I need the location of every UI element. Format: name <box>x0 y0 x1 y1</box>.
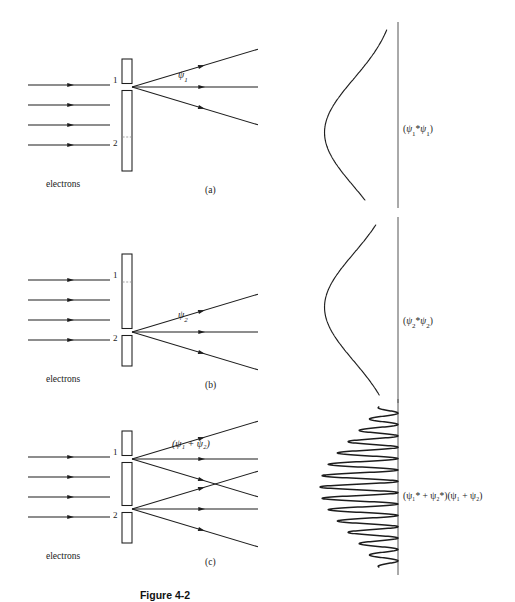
ray-fan-slit-2 <box>132 507 258 511</box>
figure-double-slit: 12electrons(a)ψ1(ψ1*ψ1) 12electrons(b)ψ2… <box>0 0 515 602</box>
intensity-curve <box>320 407 398 567</box>
ray-arrow <box>198 330 205 334</box>
electron-beam-ray <box>28 298 110 302</box>
slit-label-2: 2 <box>113 333 118 343</box>
beam-arrow <box>67 318 74 322</box>
ray-line <box>132 294 258 332</box>
panel-letter: (a) <box>205 185 216 196</box>
ray-line <box>132 459 258 497</box>
electron-beam-ray <box>28 278 110 282</box>
ray-arrow <box>198 85 205 89</box>
slit-label-1: 1 <box>113 270 118 280</box>
ray-line <box>132 87 258 125</box>
wave-function-label: ψ2 <box>178 309 188 324</box>
panel-a: 12electrons(a)ψ1(ψ1*ψ1) <box>0 20 515 220</box>
electron-beam-ray <box>28 83 110 87</box>
electron-beam-ray <box>28 318 110 322</box>
ray-fan-slit-1 <box>132 457 258 461</box>
beam-arrow <box>67 455 74 459</box>
ray-line <box>132 509 258 547</box>
ray-arrow <box>198 105 205 109</box>
ray-fan-slit-2 <box>132 332 258 370</box>
beam-arrow <box>67 338 74 342</box>
wave-function-label: (ψ₁ + ψ₂) <box>172 438 210 450</box>
barrier-block <box>122 91 132 172</box>
barrier-block <box>122 463 132 506</box>
panel-letter: (c) <box>205 557 216 568</box>
panel-b: 12electrons(b)ψ2(ψ2*ψ2) <box>0 218 515 410</box>
beam-arrow <box>67 143 74 147</box>
beam-arrow <box>67 278 74 282</box>
ray-arrow <box>198 457 205 461</box>
panel-c: 12electrons(c)(ψ₁ + ψ₂)(ψ₁* + ψ₂*)(ψ₁ + … <box>0 405 515 585</box>
ray-fan-slit-2 <box>132 509 258 547</box>
electron-beam-ray <box>28 495 110 499</box>
ray-fan-slit-1 <box>132 85 258 89</box>
ray-arrow <box>198 477 205 481</box>
electron-beam-ray <box>28 123 110 127</box>
ray-arrow <box>198 350 205 354</box>
intensity-curve <box>325 225 380 395</box>
beam-arrow <box>67 515 74 519</box>
panel-a-canvas: 12electrons(a)ψ1(ψ1*ψ1) <box>0 20 515 220</box>
ray-arrow <box>198 527 205 531</box>
ray-fan-slit-1 <box>132 49 258 87</box>
ray-line <box>132 471 258 509</box>
probability-label: (ψ₁* + ψ₂*)(ψ₁ + ψ₂) <box>403 491 482 502</box>
slit-label-1: 1 <box>113 75 118 85</box>
beam-arrow <box>67 298 74 302</box>
panel-letter: (b) <box>205 380 216 391</box>
barrier-block <box>122 59 132 84</box>
probability-label: (ψ2*ψ2) <box>403 316 433 330</box>
panel-b-canvas: 12electrons(b)ψ2(ψ2*ψ2) <box>0 218 515 410</box>
barrier-block <box>122 254 132 329</box>
ray-fan-slit-1 <box>132 459 258 497</box>
ray-line <box>132 332 258 370</box>
electron-beam-ray <box>28 455 110 459</box>
electrons-label: electrons <box>46 551 81 561</box>
ray-fan-slit-2 <box>132 294 258 332</box>
beam-arrow <box>67 495 74 499</box>
ray-line <box>132 49 258 87</box>
barrier-block <box>122 513 132 544</box>
barrier-block <box>122 336 132 367</box>
figure-caption: Figure 4-2 <box>0 589 330 602</box>
beam-arrow <box>67 83 74 87</box>
electron-beam-ray <box>28 475 110 479</box>
ray-fan-slit-1 <box>132 87 258 125</box>
slit-label-2: 2 <box>113 138 118 148</box>
barrier-block <box>122 431 132 456</box>
panel-c-canvas: 12electrons(c)(ψ₁ + ψ₂)(ψ₁* + ψ₂*)(ψ₁ + … <box>0 405 515 585</box>
beam-arrow <box>67 103 74 107</box>
slit-label-2: 2 <box>113 510 118 520</box>
electron-beam-ray <box>28 515 110 519</box>
ray-fan-slit-2 <box>132 330 258 334</box>
ray-arrow <box>198 310 205 314</box>
intensity-curve <box>325 30 387 200</box>
ray-arrow <box>198 65 205 69</box>
probability-label: (ψ1*ψ1) <box>403 124 433 138</box>
electrons-label: electrons <box>46 179 81 189</box>
slit-label-1: 1 <box>113 447 118 457</box>
ray-fan-slit-2 <box>132 471 258 509</box>
ray-arrow <box>198 507 205 511</box>
electron-beam-ray <box>28 103 110 107</box>
ray-arrow <box>198 487 205 491</box>
beam-arrow <box>67 475 74 479</box>
electrons-label: electrons <box>46 374 81 384</box>
beam-arrow <box>67 123 74 127</box>
electron-beam-ray <box>28 143 110 147</box>
electron-beam-ray <box>28 338 110 342</box>
